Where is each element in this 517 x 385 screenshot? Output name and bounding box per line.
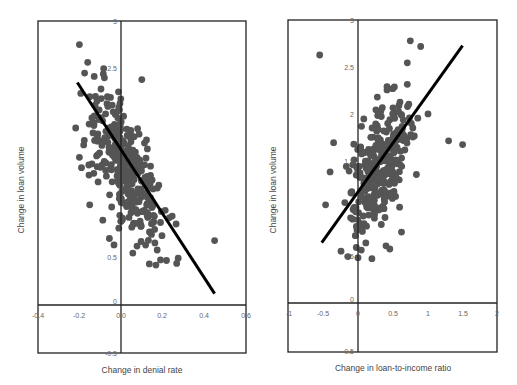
data-point: [369, 255, 376, 262]
data-point: [108, 204, 115, 211]
svg-text:0: 0: [356, 310, 360, 317]
data-point: [359, 228, 366, 235]
data-point: [389, 110, 396, 117]
scatter-points: [72, 41, 218, 268]
data-point: [407, 131, 414, 138]
svg-text:-0.5: -0.5: [105, 350, 117, 357]
trend-line: [77, 82, 214, 293]
data-point: [153, 262, 160, 269]
data-point: [404, 81, 411, 88]
data-point: [134, 243, 141, 250]
data-point: [375, 126, 382, 133]
svg-text:1.5: 1.5: [344, 158, 354, 165]
data-point: [154, 247, 161, 254]
data-point: [111, 242, 118, 249]
data-point: [144, 146, 151, 153]
y-tick-labels: -0.5 0 0.5 1.5 2 2.5 3: [342, 17, 354, 355]
data-point: [86, 201, 93, 208]
data-point: [103, 173, 110, 180]
data-point: [380, 180, 387, 187]
svg-text:0.2: 0.2: [157, 312, 167, 319]
data-point: [367, 198, 374, 205]
data-point: [370, 149, 377, 156]
data-point: [316, 52, 323, 59]
data-point: [360, 213, 367, 220]
x-tick-labels: -1 -0.5 0 0.5 1 1.5 2: [286, 310, 499, 317]
data-point: [159, 232, 166, 239]
data-point: [112, 147, 119, 154]
data-point: [405, 101, 412, 108]
data-point: [146, 261, 153, 268]
data-point: [400, 117, 407, 124]
svg-text:0.5: 0.5: [344, 253, 354, 260]
svg-text:0: 0: [113, 298, 117, 305]
svg-text:2: 2: [495, 310, 499, 317]
svg-text:3: 3: [350, 17, 354, 24]
x-axis-label: Change in denial rate: [102, 365, 183, 375]
data-point: [106, 148, 113, 155]
data-point: [143, 155, 150, 162]
data-point: [417, 43, 424, 50]
data-point: [138, 76, 145, 83]
data-point: [375, 135, 382, 142]
data-point: [322, 201, 329, 208]
data-point: [126, 214, 133, 221]
svg-text:0.6: 0.6: [241, 312, 251, 319]
data-point: [157, 219, 164, 226]
data-point: [99, 142, 106, 149]
data-point: [122, 186, 129, 193]
svg-text:2: 2: [350, 111, 354, 118]
data-point: [98, 86, 105, 93]
data-point: [445, 137, 452, 144]
data-point: [392, 157, 399, 164]
data-point: [347, 214, 354, 221]
data-point: [391, 180, 398, 187]
data-point: [131, 176, 138, 183]
svg-text:0.0: 0.0: [116, 312, 126, 319]
svg-text:0.5: 0.5: [388, 310, 398, 317]
data-point: [95, 179, 102, 186]
data-point: [157, 257, 164, 264]
data-point: [407, 37, 414, 44]
data-point: [350, 141, 357, 148]
data-point: [211, 237, 218, 244]
data-point: [404, 140, 411, 147]
y-axis-label: Change in loan volume: [16, 146, 26, 233]
data-point: [391, 188, 398, 195]
data-point: [81, 70, 88, 77]
data-point: [143, 137, 150, 144]
data-point: [330, 139, 337, 146]
data-point: [370, 205, 377, 212]
data-point: [99, 217, 106, 224]
data-point: [93, 153, 100, 160]
data-point: [361, 220, 368, 227]
data-point: [94, 133, 101, 140]
data-point: [136, 157, 143, 164]
data-point: [119, 163, 126, 170]
y-axis-label: Change in loan volume: [268, 146, 278, 233]
data-point: [413, 171, 420, 178]
data-point: [348, 189, 355, 196]
data-point: [132, 206, 139, 213]
svg-text:-0.5: -0.5: [342, 348, 354, 355]
data-point: [148, 220, 155, 227]
data-point: [72, 125, 79, 132]
data-point: [108, 166, 115, 173]
chart-loan-to-income: -1 -0.5 0 0.5 1 1.5 2 -0.5 0 0.5 1.5 2 2…: [268, 17, 499, 373]
data-point: [85, 162, 92, 169]
data-point: [383, 170, 390, 177]
data-point: [107, 94, 114, 101]
data-point: [173, 260, 180, 267]
data-point: [129, 250, 136, 257]
data-point: [80, 142, 87, 149]
data-point: [398, 229, 405, 236]
data-point: [124, 170, 131, 177]
data-point: [91, 122, 98, 129]
x-axis-label: Change in loan-to-income ratio: [335, 363, 452, 373]
data-point: [152, 240, 159, 247]
charts-canvas: -0.4 -0.2 0.0 0.2 0.4 0.6 -0.5 0 0.5 2.5…: [0, 0, 517, 385]
data-point: [91, 73, 98, 80]
data-point: [76, 41, 83, 48]
data-point: [106, 191, 113, 198]
data-point: [138, 194, 145, 201]
